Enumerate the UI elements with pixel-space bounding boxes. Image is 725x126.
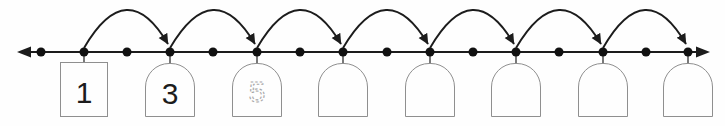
jump-arc [257, 10, 341, 48]
number-line-dot [426, 48, 435, 57]
answer-box-1: 1 [60, 62, 108, 117]
printed-digit-3: 3 [162, 72, 179, 109]
axis-left-arrowhead [17, 47, 31, 58]
number-line-dot [37, 48, 46, 57]
jump-arc [84, 10, 168, 48]
traced-digit-5: 5 [233, 64, 281, 116]
answer-box-empty-3[interactable] [491, 63, 541, 117]
number-line-dot [555, 48, 564, 57]
answer-box-empty-2[interactable] [405, 63, 455, 117]
number-line-dot [599, 48, 608, 57]
number-line-dot [469, 48, 478, 57]
answer-box-3: 3 [145, 63, 195, 117]
jump-arc [516, 10, 601, 48]
answer-box-empty-5[interactable] [663, 63, 713, 117]
answer-box-empty-4[interactable] [578, 63, 628, 117]
number-line-dot [253, 48, 262, 57]
number-line-dot [512, 48, 521, 57]
svg-text:5: 5 [249, 75, 266, 108]
axis-right-arrowhead [696, 47, 710, 58]
number-line-dot [383, 48, 392, 57]
number-line-dot [339, 48, 348, 57]
answer-box-empty-1[interactable] [318, 63, 368, 117]
jump-arc [170, 10, 255, 48]
number-line-dot [80, 48, 89, 57]
printed-digit-1: 1 [76, 71, 93, 108]
number-line-dot [123, 48, 132, 57]
number-line-dot [296, 48, 305, 57]
worksheet-number-line-diagram: 1 3 5 [0, 0, 725, 126]
jump-arc [603, 10, 686, 48]
answer-box-5-traced[interactable]: 5 [232, 63, 282, 117]
number-line-dot [166, 48, 175, 57]
number-line-dot [642, 48, 651, 57]
number-line-dot [209, 48, 218, 57]
jump-arc [343, 10, 428, 48]
jump-arc [430, 10, 514, 48]
number-line-dot [684, 48, 693, 57]
